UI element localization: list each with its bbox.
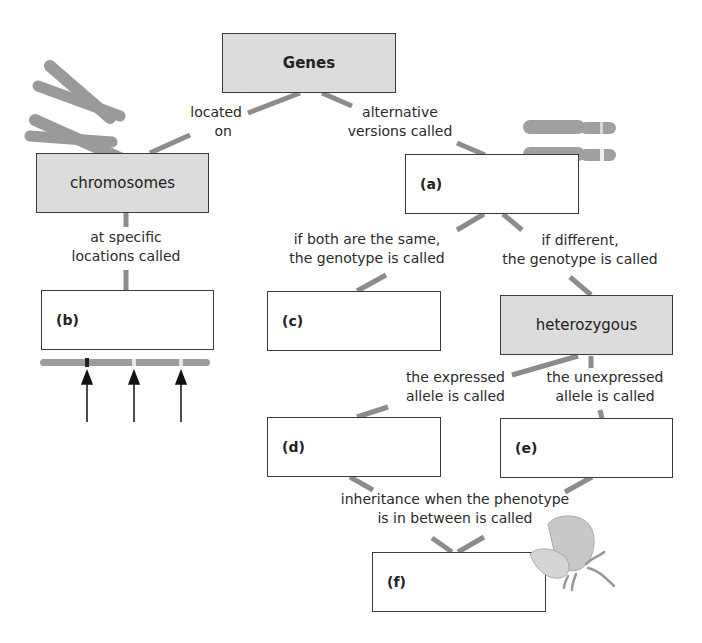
genes-node-label: Genes: [283, 54, 335, 72]
answer-box-c[interactable]: (c): [267, 291, 441, 351]
answer-box-e[interactable]: (e): [500, 418, 673, 478]
answer-box-f-label: (f): [387, 574, 406, 590]
heterozygous-node-label: heterozygous: [536, 316, 638, 334]
genes-node: Genes: [222, 33, 396, 93]
answer-box-b[interactable]: (b): [41, 290, 214, 350]
chromosomes-node-label: chromosomes: [70, 174, 175, 192]
link-both-same: if both are the same, the genotype is ca…: [272, 230, 462, 268]
connector-a-different: [503, 214, 522, 230]
link-both-same-line2: the genotype is called: [272, 249, 462, 268]
answer-box-d[interactable]: (d): [267, 417, 441, 477]
link-expressed-line1: the expressed: [370, 368, 505, 387]
heterozygous-node: heterozygous: [500, 295, 673, 355]
link-alternative-versions-line1: alternative: [325, 103, 475, 122]
connector-inbetween-f-left: [432, 538, 452, 552]
link-alternative-versions-line2: versions called: [325, 122, 475, 141]
flower-petal-icon: [528, 512, 620, 592]
link-specific-locations-line1: at specific: [56, 228, 196, 247]
link-different: if different, the genotype is called: [490, 231, 670, 269]
link-both-same-line1: if both are the same,: [272, 230, 462, 249]
answer-box-f[interactable]: (f): [372, 552, 546, 612]
link-located-on-line1: located: [172, 103, 242, 122]
answer-box-b-label: (b): [56, 312, 79, 328]
link-in-between-line1: inheritance when the phenotype: [320, 490, 590, 509]
chromosome-x-icon: [20, 58, 130, 168]
answer-box-e-label: (e): [515, 440, 537, 456]
link-different-line2: the genotype is called: [490, 250, 670, 269]
link-unexpressed: the unexpressed allele is called: [535, 368, 675, 406]
connector-inbetween-f-right: [458, 537, 484, 552]
connector-expressed-d: [357, 407, 388, 417]
answer-box-c-label: (c): [282, 313, 303, 329]
link-expressed: the expressed allele is called: [370, 368, 505, 406]
connector-genes-located: [248, 93, 300, 113]
link-unexpressed-line2: allele is called: [535, 387, 675, 406]
connector-different-hetero: [570, 277, 591, 295]
link-different-line1: if different,: [490, 231, 670, 250]
answer-box-d-label: (d): [282, 439, 305, 455]
connector-d-inbetween: [350, 477, 373, 490]
link-located-on-line2: on: [172, 122, 242, 141]
link-alternative-versions: alternative versions called: [325, 103, 475, 141]
link-specific-locations: at specific locations called: [56, 228, 196, 266]
connector-unexpressed-e: [600, 410, 602, 418]
answer-box-a-label: (a): [420, 176, 442, 192]
link-specific-locations-line2: locations called: [56, 247, 196, 266]
chromosomes-node: chromosomes: [36, 153, 209, 213]
answer-box-a[interactable]: (a): [405, 154, 579, 214]
chromosome-loci-icon: [38, 356, 218, 426]
connector-a-same: [457, 214, 484, 230]
connector-same-c: [357, 275, 386, 291]
link-expressed-line2: allele is called: [370, 387, 505, 406]
link-unexpressed-line1: the unexpressed: [535, 368, 675, 387]
link-located-on: located on: [172, 103, 242, 141]
concept-map: Genes located on alternative versions ca…: [0, 0, 702, 643]
